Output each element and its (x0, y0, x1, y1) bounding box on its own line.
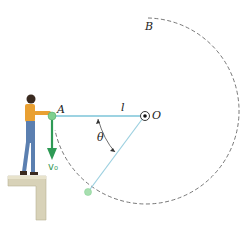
label-b: B (145, 21, 153, 32)
ball-at-a (48, 112, 56, 120)
pendulum-diagram (0, 0, 247, 228)
ledge (8, 176, 46, 220)
dashed-trajectory (55, 18, 239, 204)
label-a: A (57, 104, 65, 115)
ball-lower (85, 189, 92, 196)
label-theta: θ (97, 132, 104, 143)
velocity-arrow-head (47, 148, 57, 160)
label-length: l (121, 102, 125, 113)
person-figure (20, 95, 51, 176)
rope-angled (88, 118, 143, 192)
pivot-o-inner (143, 114, 147, 118)
label-velocity: v₀ (48, 162, 58, 172)
label-o: O (152, 110, 161, 121)
